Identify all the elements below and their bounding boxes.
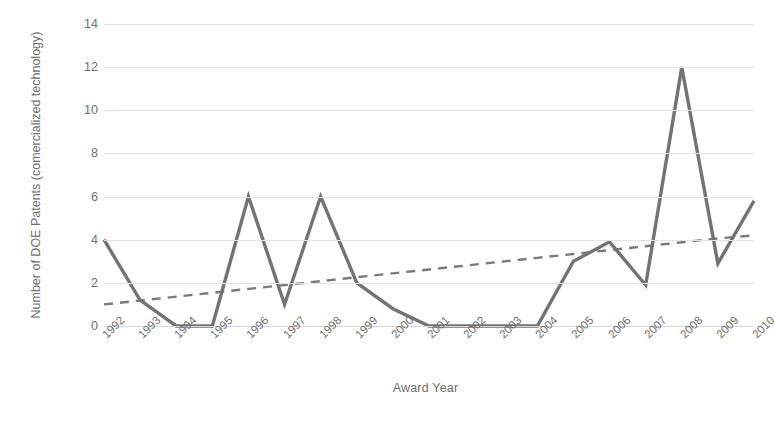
x-axis-title: Award Year [98, 381, 753, 395]
gridlines [104, 24, 754, 326]
y-axis-tick-labels: 02468101214 [62, 24, 98, 326]
gridline [104, 153, 754, 154]
y-axis-tick-label: 2 [91, 276, 98, 290]
y-axis-title: Number of DOE Patents (comercialized tec… [18, 10, 54, 340]
y-axis-tick-label: 12 [84, 60, 98, 74]
y-axis-tick-label: 10 [84, 103, 98, 117]
y-axis-tick-label: 0 [91, 319, 98, 333]
y-axis-tick-label: 4 [91, 233, 98, 247]
gridline [104, 240, 754, 241]
gridline [104, 197, 754, 198]
y-axis-title-label: Number of DOE Patents (comercialized tec… [28, 20, 45, 330]
gridline [104, 24, 754, 25]
gridline [104, 67, 754, 68]
gridline [104, 110, 754, 111]
gridline [104, 283, 754, 284]
x-axis-tick-labels: 1992199319941995199619971998199920002001… [104, 328, 754, 380]
y-axis-tick-label: 14 [84, 17, 98, 31]
y-axis-tick-label: 8 [91, 146, 98, 160]
chart-container: Number of DOE Patents (comercialized tec… [0, 0, 775, 423]
y-axis-tick-label: 6 [91, 190, 98, 204]
plot-area [104, 24, 754, 326]
